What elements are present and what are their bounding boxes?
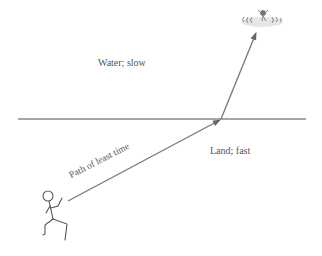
refraction-diagram: Water; slow Land; fast Path of least tim…: [0, 0, 322, 256]
diagram-canvas: [0, 0, 322, 256]
stick-figure-runner-icon: [43, 191, 67, 240]
land-label: Land; fast: [210, 145, 250, 156]
water-label: Water; slow: [98, 57, 146, 68]
water-path-arrow: [221, 33, 256, 119]
drowning-swimmer-icon: [241, 10, 283, 27]
